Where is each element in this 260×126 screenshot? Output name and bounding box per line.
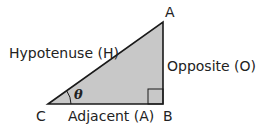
adjacent-label: Adjacent (A) <box>68 108 154 124</box>
vertex-c-label: C <box>36 108 46 124</box>
angle-theta-label: θ <box>74 87 83 102</box>
triangle-diagram: θ A B C Hypotenuse (H) Opposite (O) Adja… <box>0 0 260 126</box>
opposite-label: Opposite (O) <box>167 58 256 74</box>
vertex-a-label: A <box>165 4 175 20</box>
triangle-shape <box>48 22 163 104</box>
hypotenuse-label: Hypotenuse (H) <box>9 45 119 61</box>
vertex-b-label: B <box>163 108 173 124</box>
